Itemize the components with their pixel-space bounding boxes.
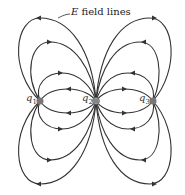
charge-q2-icon bbox=[93, 98, 100, 105]
charge-sub: 2 bbox=[88, 98, 92, 106]
charge-q1-icon bbox=[37, 98, 44, 105]
field-line bbox=[31, 101, 96, 160]
charge-sub: 3 bbox=[145, 98, 149, 106]
field-line bbox=[96, 101, 171, 184]
label-leader-line bbox=[58, 14, 70, 18]
field-line bbox=[19, 18, 96, 101]
charge-sub: 1 bbox=[32, 98, 36, 106]
label-text: field lines bbox=[78, 6, 130, 17]
charge-q3-icon bbox=[150, 98, 157, 105]
field-line bbox=[19, 101, 96, 184]
charge-label-q1: q1 bbox=[26, 92, 37, 106]
charge-label-q2: q2 bbox=[82, 92, 93, 106]
charge-label-q3: q3 bbox=[139, 92, 150, 106]
field-line bbox=[96, 18, 171, 101]
electric-field-diagram: E field lines q1 q2 q3 bbox=[0, 0, 185, 195]
field-lines-label: E field lines bbox=[71, 6, 131, 17]
field-line bbox=[96, 101, 159, 160]
